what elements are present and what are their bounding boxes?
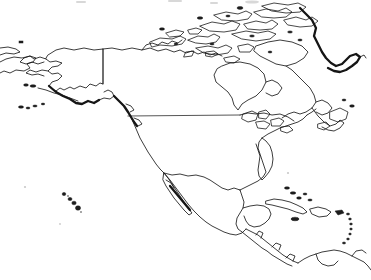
map-figure: North America Outline Map <box>0 0 371 280</box>
north-america-outline-map: North America Outline Map <box>0 0 371 280</box>
map-background <box>0 0 371 280</box>
